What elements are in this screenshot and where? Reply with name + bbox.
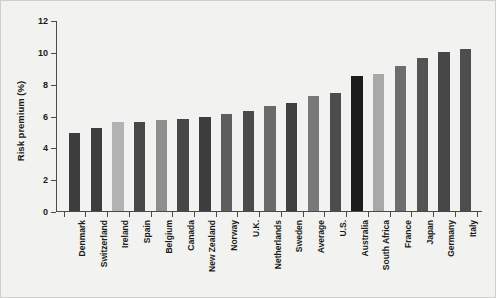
bar [373,74,384,211]
x-tick [455,212,456,217]
y-tick [51,85,56,86]
x-tick-label-text: Switzerland [100,220,109,267]
x-tick [411,212,412,217]
x-tick [64,212,65,217]
bar [134,122,145,211]
x-tick-label-text: Netherlands [274,220,283,269]
x-tick [477,212,478,217]
x-tick-label-text: Japan [426,220,435,245]
x-axis-line [56,211,482,212]
bar [330,93,341,211]
x-tick [129,212,130,217]
y-tick-label: 2 [43,175,48,185]
x-tick [368,212,369,217]
bar [417,58,428,211]
bar [243,111,254,211]
x-tick-label-text: South Africa [382,220,391,270]
y-axis-label: Risk premium (%) [13,31,27,211]
x-tick-label-text: Spain [143,220,152,243]
x-tick-label-text: Sweden [295,220,304,252]
x-tick-label-text: Canada [187,220,196,251]
y-tick [51,117,56,118]
x-tick [216,212,217,217]
bar [308,96,319,211]
bar [199,117,210,211]
y-tick [51,212,56,213]
y-tick-label: 4 [43,143,48,153]
bar [221,114,232,211]
y-axis-line [56,21,57,212]
x-tick-label-text: Italy [469,220,478,237]
x-tick [433,212,434,217]
bar [460,49,471,211]
y-tick [51,53,56,54]
y-tick-label: 8 [43,80,48,90]
y-tick-label: 10 [38,48,48,58]
x-tick [194,212,195,217]
x-tick-label-text: Germany [447,220,456,257]
x-tick-label-text: Australia [361,220,370,256]
x-tick-label-text: U.S. [339,220,348,237]
x-tick-label-text: Ireland [121,220,130,248]
x-tick [151,212,152,217]
x-tick [172,212,173,217]
bar [438,52,449,211]
x-tick [237,212,238,217]
x-tick-label-text: New Zealand [208,220,217,272]
bar [91,128,102,211]
chart-figure: Risk premium (%) 024681012 DenmarkSwitze… [0,0,496,298]
bar [177,119,188,211]
y-tick-label: 12 [38,16,48,26]
y-tick [51,21,56,22]
y-tick-label: 0 [43,207,48,217]
bar [69,133,80,211]
y-tick [51,180,56,181]
bar [351,76,362,211]
x-tick-label-text: Denmark [78,220,87,256]
x-tick [85,212,86,217]
x-tick-label-text: Norway [230,220,239,251]
x-tick-label-text: Average [317,220,326,253]
x-tick [303,212,304,217]
x-tick [259,212,260,217]
x-tick [107,212,108,217]
bar [286,103,297,211]
y-axis-label-text: Risk premium (%) [15,81,26,161]
x-tick [324,212,325,217]
bar [395,66,406,211]
y-tick [51,148,56,149]
bar [156,120,167,211]
plot-area: 024681012 DenmarkSwitzerlandIrelandSpain… [56,21,482,212]
x-tick [390,212,391,217]
x-tick [281,212,282,217]
bar [264,106,275,211]
x-tick-label-text: France [404,220,413,248]
bar [112,122,123,211]
x-tick-label-text: U.K. [252,220,261,237]
y-tick-label: 6 [43,112,48,122]
x-tick [346,212,347,217]
x-tick-label-text: Belgium [165,220,174,254]
